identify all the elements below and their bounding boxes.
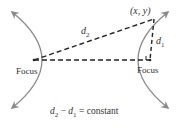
d2-label: d2: [81, 25, 90, 39]
d1-label: d1: [156, 35, 165, 49]
equation: d2 − d1 = constant: [50, 106, 119, 119]
left-focus-point: [33, 59, 36, 62]
d2-distance-line: [34, 19, 154, 60]
left-focus-label: Focus: [16, 66, 38, 76]
right-focus-point: [149, 59, 152, 62]
point-label: (x, y): [130, 5, 151, 17]
right-focus-label: Focus: [137, 65, 159, 75]
hyperbola-diagram: Focus Focus (x, y) d2 d1 d2 − d1 = const…: [0, 0, 179, 128]
